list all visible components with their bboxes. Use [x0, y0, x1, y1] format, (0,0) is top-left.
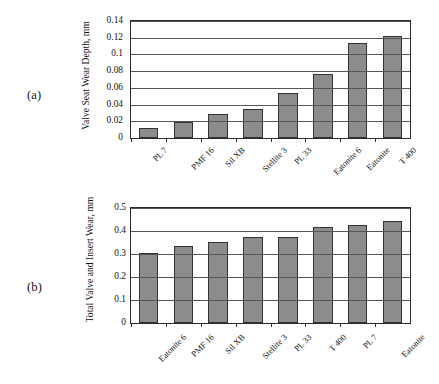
gridline: [131, 54, 410, 55]
panel-label-b: (b): [27, 280, 42, 295]
x-tick-label: PMF 16: [189, 145, 216, 172]
y-axis-title-b: Total Valve and Insert Wear, mm: [84, 185, 95, 335]
plot-area-b: [130, 207, 411, 324]
bar: [139, 253, 159, 323]
x-tick-mark: [305, 323, 306, 327]
y-tick-label: 0.14: [107, 15, 127, 25]
bar-series-b: [131, 208, 410, 323]
y-tick-label: 0: [121, 317, 130, 327]
plot-area-a: [130, 20, 411, 139]
x-tick-label: Stellite 3: [260, 145, 289, 174]
bar-slot: [236, 208, 271, 323]
bar: [348, 43, 368, 138]
y-tick-label: 0.3: [114, 248, 130, 258]
gridline: [131, 21, 410, 22]
x-tick-mark: [236, 323, 237, 327]
x-tick-mark: [271, 138, 272, 142]
x-tick-mark: [201, 323, 202, 327]
gridline: [131, 105, 410, 106]
y-tick-label: 0.5: [114, 202, 130, 212]
x-tick-mark: [340, 138, 341, 142]
x-tick-mark: [305, 138, 306, 142]
x-tick-mark: [236, 138, 237, 142]
x-tick-mark: [131, 138, 132, 142]
bar-slot: [375, 208, 410, 323]
bar: [243, 109, 263, 138]
y-axis-title-a: Valve Seat Wear Depth, mm: [80, 11, 91, 141]
bar-slot: [271, 208, 306, 323]
gridline: [131, 71, 410, 72]
y-axis-ticks-a: 00.020.040.060.080.10.120.14: [93, 20, 127, 139]
x-tick-mark: [201, 138, 202, 142]
x-tick-mark: [131, 323, 132, 327]
y-tick-label: 0.1: [111, 48, 127, 58]
bar: [278, 237, 298, 323]
gridline: [131, 38, 410, 39]
bar: [348, 225, 368, 323]
bar: [313, 227, 333, 323]
bar: [243, 237, 263, 323]
y-tick-label: 0.12: [107, 32, 127, 42]
x-tick-label: PL 7: [150, 145, 168, 163]
gridline: [131, 231, 410, 232]
bar-slot: [340, 208, 375, 323]
gridline: [131, 208, 410, 209]
y-axis-ticks-b: 00.10.20.30.40.5: [96, 207, 130, 324]
bar: [174, 246, 194, 323]
y-tick-label: 0: [118, 132, 127, 142]
y-tick-label: 0.06: [107, 82, 127, 92]
bar: [174, 122, 194, 138]
y-tick-label: 0.2: [114, 271, 130, 281]
bar-slot: [131, 208, 166, 323]
y-tick-label: 0.04: [107, 99, 127, 109]
gridline: [131, 121, 410, 122]
gridline: [131, 88, 410, 89]
y-tick-label: 0.1: [114, 294, 130, 304]
x-tick-label: T 400: [397, 145, 418, 166]
chart-panel-a: (a) Valve Seat Wear Depth, mm 00.020.040…: [0, 0, 439, 192]
bar: [383, 221, 403, 323]
gridline: [131, 254, 410, 255]
x-tick-label: PL 33: [292, 145, 314, 167]
chart-panel-b: (b) Total Valve and Insert Wear, mm: [0, 192, 439, 384]
bar: [313, 74, 333, 138]
x-tick-mark: [375, 323, 376, 327]
x-tick-mark: [166, 323, 167, 327]
x-tick-mark: [375, 138, 376, 142]
bar: [278, 93, 298, 138]
x-tick-label: Eatonite 6: [331, 145, 363, 177]
x-tick-mark: [166, 138, 167, 142]
x-tick-mark: [340, 323, 341, 327]
bar-slot: [305, 208, 340, 323]
gridline: [131, 277, 410, 278]
panel-label-a: (a): [27, 88, 41, 103]
x-tick-label: Sil XB: [223, 145, 247, 169]
bar-slot: [201, 208, 236, 323]
y-tick-label: 0.08: [107, 65, 127, 75]
gridline: [131, 300, 410, 301]
x-tick-mark: [271, 323, 272, 327]
bar: [139, 128, 159, 138]
bar: [208, 114, 228, 138]
bar-slot: [166, 208, 201, 323]
y-tick-label: 0.02: [107, 115, 127, 125]
x-tick-label: Eatonite: [365, 145, 392, 172]
bar: [383, 36, 403, 138]
y-tick-label: 0.4: [114, 225, 130, 235]
